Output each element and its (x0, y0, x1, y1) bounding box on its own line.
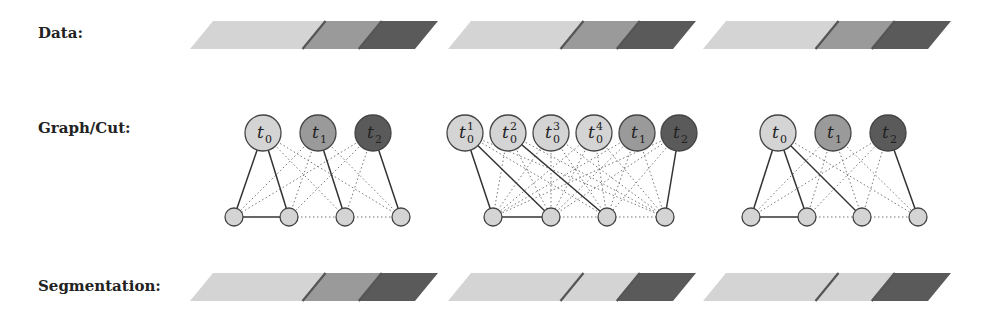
label-node-t0-4: t04 (576, 115, 612, 151)
pixel-node (656, 208, 674, 226)
data-bar-2 (448, 21, 696, 49)
svg-text:0: 0 (467, 133, 474, 146)
node-label: t (257, 122, 264, 142)
node-label: t (631, 122, 638, 142)
node-label: t (312, 122, 319, 142)
node-label: t (772, 122, 779, 142)
svg-text:0: 0 (553, 133, 560, 146)
pixel-node (542, 208, 560, 226)
svg-text:1: 1 (467, 120, 474, 133)
svg-text:0: 0 (780, 133, 787, 146)
svg-text:0: 0 (596, 133, 603, 146)
pixel-node (798, 208, 816, 226)
pixel-node (392, 208, 410, 226)
segmentation-bar-3 (703, 273, 951, 301)
svg-text:4: 4 (596, 120, 603, 133)
svg-text:2: 2 (510, 120, 517, 133)
node-label: t (827, 122, 834, 142)
label-node-t0-3: t03 (533, 115, 569, 151)
svg-text:1: 1 (639, 133, 646, 146)
svg-text:1: 1 (320, 133, 327, 146)
segmentation-bar-2 (448, 273, 696, 301)
pixel-node (598, 208, 616, 226)
graphs: t0t1t2t01t02t03t04t1t2t0t1t2 (225, 115, 927, 226)
segmentation-bar-1 (190, 273, 438, 301)
label-node-t1: t1 (815, 115, 851, 151)
data-bar-1 (190, 21, 438, 49)
label-node-t1: t1 (619, 115, 655, 151)
graph-2: t01t02t03t04t1t2 (447, 115, 697, 226)
svg-text:0: 0 (510, 133, 517, 146)
svg-text:0: 0 (265, 133, 272, 146)
node-label: t (545, 122, 552, 142)
node-label: t (502, 122, 509, 142)
label-node-t2: t2 (355, 115, 391, 151)
label-node-t0-2: t02 (490, 115, 526, 151)
node-label: t (673, 122, 680, 142)
pixel-node (909, 208, 927, 226)
label-node-t1: t1 (300, 115, 336, 151)
graph-3: t0t1t2 (742, 115, 927, 226)
svg-text:2: 2 (681, 133, 688, 146)
node-label: t (367, 122, 374, 142)
svg-text:2: 2 (890, 133, 897, 146)
label-node-t0: t0 (245, 115, 281, 151)
svg-text:2: 2 (375, 133, 382, 146)
graph-1: t0t1t2 (225, 115, 410, 226)
diagram-canvas: t0t1t2t01t02t03t04t1t2t0t1t2 (0, 0, 985, 317)
data-bar-3 (703, 21, 951, 49)
pixel-node (853, 208, 871, 226)
pixel-node (225, 208, 243, 226)
pixel-node (484, 208, 502, 226)
svg-text:1: 1 (835, 133, 842, 146)
data-bars (190, 21, 951, 49)
pixel-node (280, 208, 298, 226)
label-node-t0-1: t01 (447, 115, 483, 151)
pixel-node (742, 208, 760, 226)
node-label: t (882, 122, 889, 142)
segmentation-bars (190, 273, 951, 301)
label-node-t0: t0 (760, 115, 796, 151)
node-label: t (588, 122, 595, 142)
pixel-node (336, 208, 354, 226)
label-node-t2: t2 (870, 115, 906, 151)
svg-text:3: 3 (553, 120, 560, 133)
label-node-t2: t2 (661, 115, 697, 151)
node-label: t (459, 122, 466, 142)
